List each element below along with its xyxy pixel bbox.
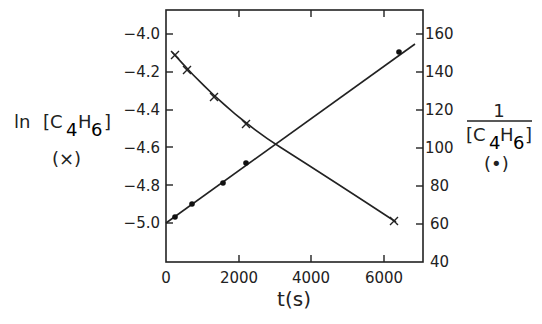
svg-text:0: 0: [161, 269, 171, 287]
plot-frame: [166, 10, 423, 262]
left-y-ticks: [166, 34, 173, 223]
svg-text:[C: [C: [466, 124, 486, 145]
x-marker-icon: [171, 51, 179, 59]
ln-fit-curve: [172, 52, 396, 222]
x-axis-title: t(s): [277, 287, 311, 311]
right-y-ticks: [416, 34, 423, 224]
svg-text:−5.0: −5.0: [124, 214, 160, 232]
svg-text:]: ]: [525, 124, 532, 145]
svg-text:60: 60: [430, 215, 449, 233]
svg-text:80: 80: [430, 177, 449, 195]
svg-text:−4.4: −4.4: [124, 101, 160, 119]
svg-text:100: 100: [425, 139, 454, 157]
right-tick-labels: 160 140 120 100 80 60 40: [425, 25, 454, 271]
svg-text:(•): (•): [484, 153, 509, 174]
right-axis-title: 1 [C 4 H 6 ] (•): [466, 100, 532, 174]
svg-text:160: 160: [425, 25, 454, 43]
svg-text:140: 140: [425, 63, 454, 81]
dot-marker-icon: [220, 180, 226, 186]
left-axis-title: ln [C 4 H 6 ] (×): [14, 111, 111, 169]
x-marker-icon: [183, 66, 191, 74]
svg-text:4000: 4000: [292, 269, 330, 287]
svg-text:(×): (×): [52, 148, 81, 169]
svg-text:1: 1: [493, 100, 504, 121]
dot-marker-icon: [243, 160, 249, 166]
svg-text:40: 40: [430, 253, 449, 271]
x-ticks: [239, 10, 384, 262]
svg-text:2000: 2000: [220, 269, 258, 287]
inverse-fit-line: [166, 44, 415, 223]
left-tick-labels: −4.0 −4.2 −4.4 −4.6 −4.8 −5.0: [124, 25, 160, 232]
x-marker-icon: [390, 217, 398, 225]
svg-text:−4.2: −4.2: [124, 63, 160, 81]
chart: −4.0 −4.2 −4.4 −4.6 −4.8 −5.0 160 140 12…: [0, 0, 542, 324]
x-tick-labels: 0 2000 4000 6000: [161, 269, 403, 287]
svg-text:4: 4: [489, 132, 500, 153]
svg-text:−4.0: −4.0: [124, 25, 160, 43]
dot-marker-icon: [396, 49, 402, 55]
svg-text:−4.6: −4.6: [124, 139, 160, 157]
svg-text:H: H: [500, 124, 514, 145]
svg-text:−4.8: −4.8: [124, 177, 160, 195]
svg-text:6000: 6000: [365, 269, 403, 287]
svg-text:]: ]: [104, 111, 111, 132]
svg-text:H: H: [78, 111, 92, 132]
svg-text:ln: ln: [14, 111, 30, 132]
svg-text:[C: [C: [43, 111, 63, 132]
svg-text:6: 6: [91, 119, 102, 140]
dot-marker-icon: [189, 201, 195, 207]
svg-text:4: 4: [66, 119, 77, 140]
svg-text:120: 120: [425, 101, 454, 119]
svg-text:6: 6: [513, 132, 524, 153]
dot-marker-icon: [172, 214, 178, 220]
